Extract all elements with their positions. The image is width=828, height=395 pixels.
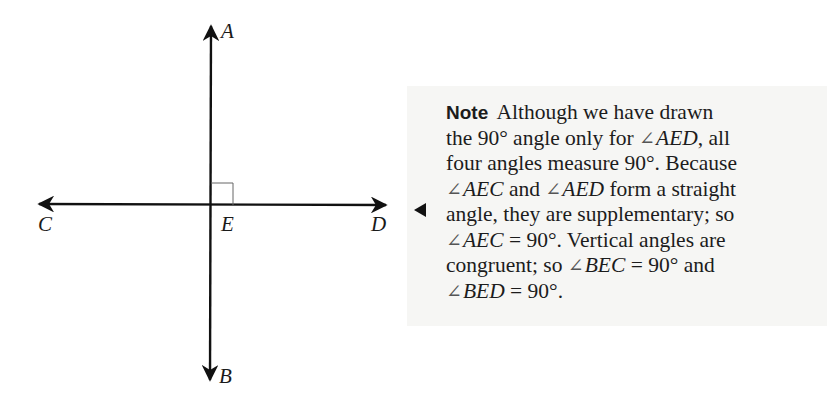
textbook-figure: A B C D E Note Although we have drawn th… xyxy=(0,0,828,395)
note-line-8: ∠BED = 90°. xyxy=(446,279,818,305)
angle-symbol-icon: ∠ xyxy=(639,128,655,149)
angle-name: BED xyxy=(463,279,505,303)
note-line-1: Note Although we have drawn xyxy=(446,100,818,126)
note-text: Note Although we have drawn the 90° angl… xyxy=(446,100,818,304)
note-text-segment: , all xyxy=(698,126,730,150)
note-title: Note xyxy=(446,102,488,123)
note-line-6: ∠AEC = 90°. Vertical angles are xyxy=(446,228,818,254)
angle-name: BEC xyxy=(585,253,626,277)
note-text-segment: and xyxy=(504,177,546,201)
note-text-segment: = 90°. xyxy=(505,279,563,303)
angle-name: AEC xyxy=(463,228,504,252)
note-text-segment: = 90° and xyxy=(625,253,714,277)
note-text-segment: = 90°. Vertical angles are xyxy=(504,228,726,252)
point-label-c: C xyxy=(38,214,52,235)
note-line-2: the 90° angle only for ∠AED, all xyxy=(446,126,818,152)
note-line-4: ∠AEC and ∠AED form a straight xyxy=(446,177,818,203)
line-ab xyxy=(210,26,211,380)
note-text-segment: form a straight xyxy=(604,177,736,201)
note-text-segment: congruent; so xyxy=(446,253,568,277)
point-label-d: D xyxy=(371,214,386,235)
angle-name: AED xyxy=(562,177,604,201)
right-angle-marker xyxy=(211,183,233,205)
angle-symbol-icon: ∠ xyxy=(568,255,584,276)
angle-symbol-icon: ∠ xyxy=(446,179,462,200)
note-pointer-icon xyxy=(414,203,426,217)
note-text-segment: angle, they are supplementary; so xyxy=(446,202,734,226)
note-line-3: four angles measure 90°. Because xyxy=(446,151,818,177)
angle-symbol-icon: ∠ xyxy=(446,281,462,302)
note-line-7: congruent; so ∠BEC = 90° and xyxy=(446,253,818,279)
note-text-segment: four angles measure 90°. Because xyxy=(446,151,737,175)
perpendicular-lines-diagram xyxy=(0,0,420,395)
note-text-segment: Although we have drawn xyxy=(492,100,713,124)
angle-name: AEC xyxy=(463,177,504,201)
angle-name: AED xyxy=(656,126,698,150)
point-label-e: E xyxy=(221,214,234,235)
angle-symbol-icon: ∠ xyxy=(545,179,561,200)
angle-symbol-icon: ∠ xyxy=(446,230,462,251)
note-text-segment: the 90° angle only for xyxy=(446,126,639,150)
point-label-a: A xyxy=(221,21,234,42)
note-line-5: angle, they are supplementary; so xyxy=(446,202,818,228)
line-cd xyxy=(39,204,386,205)
point-label-b: B xyxy=(219,366,232,387)
